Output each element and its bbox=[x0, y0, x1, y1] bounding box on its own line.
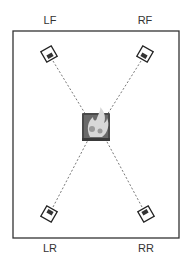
line-rr bbox=[106, 140, 142, 207]
line-lr bbox=[53, 140, 88, 207]
label-rr: RR bbox=[138, 242, 154, 254]
label-lf: LF bbox=[44, 14, 57, 26]
diagram-canvas bbox=[0, 0, 192, 261]
label-rf: RF bbox=[138, 14, 153, 26]
speaker-icon-lr bbox=[41, 206, 57, 222]
label-lr: LR bbox=[43, 242, 57, 254]
listener-icon bbox=[82, 107, 110, 141]
speaker-icon-rf bbox=[137, 46, 153, 62]
speaker-layout-diagram: LF RF LR RR bbox=[0, 0, 192, 261]
speaker-icon-rr bbox=[138, 206, 154, 222]
speaker-icon-lf bbox=[41, 46, 57, 62]
line-lf bbox=[53, 61, 86, 115]
line-rf bbox=[107, 61, 141, 115]
